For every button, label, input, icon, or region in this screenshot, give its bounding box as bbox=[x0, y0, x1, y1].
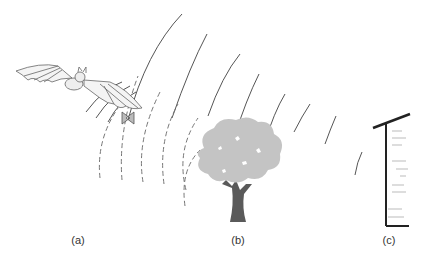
panel-label-b: (b) bbox=[231, 234, 244, 246]
echolocation-diagram: (a) (b) (c) bbox=[0, 0, 426, 272]
diagram-artwork bbox=[0, 0, 426, 272]
insect-icon bbox=[122, 112, 134, 124]
panel-label-a: (a) bbox=[71, 234, 84, 246]
tree-icon bbox=[198, 117, 282, 222]
panel-label-c: (c) bbox=[383, 234, 396, 246]
wall-icon bbox=[373, 114, 410, 226]
bat-icon bbox=[16, 65, 142, 109]
